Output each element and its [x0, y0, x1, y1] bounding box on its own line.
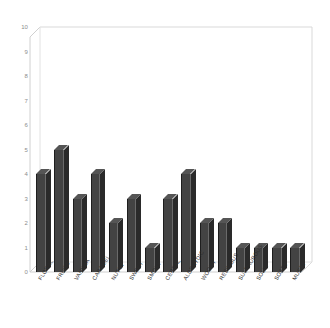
x-tick-label: CEREAL	[164, 258, 182, 281]
x-tick-label: FRUITY	[55, 260, 71, 281]
x-tick-label: FLORAL	[37, 259, 54, 282]
x-tick-label: SOAPY	[273, 261, 289, 281]
x-tick-label: WOODY	[200, 259, 217, 281]
bar-chart: 109876543210 FLORALFRUITYVANILLACARAMELN…	[0, 0, 330, 328]
x-tick-label: SMOKY	[146, 260, 162, 281]
x-tick-label: CARAMEL	[91, 254, 111, 281]
x-tick-label: SWEET	[128, 260, 144, 281]
x-tick-label: NUTTY	[110, 261, 126, 281]
x-tick-label: MUSTY	[291, 261, 307, 282]
x-axis: FLORALFRUITYVANILLACARAMELNUTTYSWEETSMOK…	[0, 0, 330, 328]
x-tick-label: SOUR	[255, 264, 269, 282]
x-tick-label: VANILLA	[73, 258, 91, 282]
